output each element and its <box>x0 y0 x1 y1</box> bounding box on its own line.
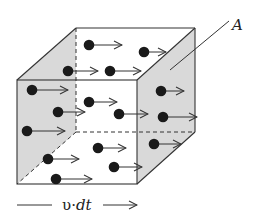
particle <box>84 97 117 108</box>
particle <box>139 47 166 58</box>
particle-dot <box>51 174 62 185</box>
particle-dot <box>27 85 38 96</box>
particle <box>93 143 126 154</box>
particle <box>84 40 122 51</box>
particle <box>43 154 79 165</box>
particle-dot <box>84 97 95 108</box>
particle-dot <box>53 107 64 118</box>
particle-dot <box>22 126 33 137</box>
particle-dot <box>114 109 125 120</box>
particle-dot <box>149 139 160 150</box>
particle <box>105 66 141 77</box>
length-label: υ·dt <box>62 196 93 214</box>
particle-dot <box>63 66 74 77</box>
particle-dot <box>109 162 120 173</box>
particle-dot <box>158 112 169 123</box>
particle-dot <box>93 143 104 154</box>
diagram-canvas: A υ·dt <box>0 0 257 221</box>
particle-dot <box>156 86 167 97</box>
particle <box>51 174 92 185</box>
particle-dot <box>105 66 116 77</box>
cube-diagram: A υ·dt <box>0 0 257 221</box>
particle-dot <box>43 154 54 165</box>
particle-dot <box>139 47 150 58</box>
particle <box>63 66 98 77</box>
area-label: A <box>230 16 243 34</box>
particle-dot <box>84 40 95 51</box>
